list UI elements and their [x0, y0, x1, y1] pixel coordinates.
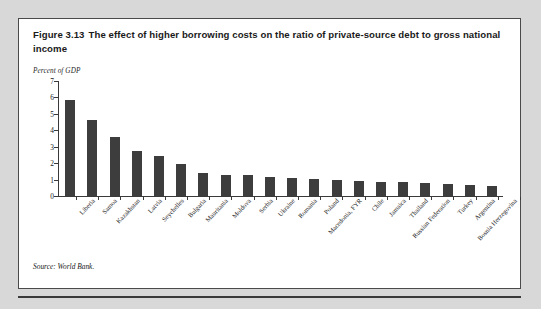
x-axis-tick-label: Liberia	[78, 197, 96, 216]
bottom-divider	[18, 296, 521, 298]
page-title: Figure 3.13The effect of higher borrowin…	[33, 28, 503, 55]
x-axis-tick-label: Serbia	[257, 197, 274, 214]
y-axis-tick-mark	[54, 81, 58, 82]
x-axis-tick-label: Turkey	[455, 197, 473, 216]
figure-title-text: The effect of higher borrowing costs on …	[33, 29, 500, 54]
bar	[198, 173, 208, 196]
y-axis-tick-mark	[54, 180, 58, 181]
bar	[354, 181, 364, 196]
x-axis-tick-label: Romania	[297, 197, 319, 219]
figure-number: Figure 3.13	[33, 29, 85, 40]
bar	[309, 179, 319, 196]
x-axis-tick-label: Poland	[323, 197, 341, 215]
bar	[487, 186, 497, 196]
x-axis-tick-label: Bosnia Herzegovina	[476, 197, 518, 242]
bar	[87, 120, 97, 196]
bar	[332, 180, 342, 196]
figure-card: Figure 3.13The effect of higher borrowin…	[18, 18, 521, 289]
bar	[65, 100, 75, 196]
x-axis-tick-label: Thailand	[408, 197, 429, 219]
x-axis-tick-label: Bulgaria	[186, 197, 207, 219]
y-axis-tick-mark	[54, 114, 58, 115]
y-axis-tick-mark	[54, 97, 58, 98]
source-note: Source: World Bank.	[33, 262, 94, 271]
y-axis-tick-mark	[54, 147, 58, 148]
x-axis-tick-label: Chile	[370, 197, 385, 212]
bars-region	[59, 81, 503, 197]
bar	[176, 164, 186, 196]
x-axis-tick-label: Moldova	[230, 197, 252, 219]
bar	[154, 156, 164, 196]
axis-units-label: Percent of GDP	[33, 67, 80, 75]
bar	[132, 151, 142, 196]
bar	[110, 137, 120, 196]
bar	[398, 182, 408, 196]
x-axis-tick-label: Latvia	[146, 197, 163, 214]
x-axis-tick-label: Seychelles	[160, 197, 185, 223]
bar	[287, 178, 297, 196]
bar	[465, 185, 475, 197]
bar	[221, 175, 231, 196]
bar	[443, 184, 453, 196]
x-axis-tick-label: Samoa	[101, 197, 119, 215]
x-axis-tick-label: Jamaica	[387, 197, 407, 218]
bar	[243, 175, 253, 196]
x-axis-tick-labels: LiberiaSamoaKazakhstanLatviaSeychellesBu…	[41, 197, 541, 277]
y-axis-tick-mark	[54, 130, 58, 131]
bar	[265, 177, 275, 196]
y-axis-tick-mark	[54, 163, 58, 164]
x-axis-tick-label: Ukraine	[276, 197, 296, 218]
bar	[376, 182, 386, 196]
bar	[420, 183, 430, 196]
x-axis-tick-label: Mauritania	[204, 197, 229, 223]
